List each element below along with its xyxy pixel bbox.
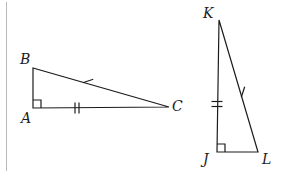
triangle-outline-abc (33, 68, 169, 108)
right-angle-marker-a (33, 100, 41, 108)
tick-mark-kl-1 (241, 87, 244, 97)
triangle-outline-jkl (217, 20, 258, 152)
vertex-label-l: L (262, 152, 271, 166)
vertex-label-b: B (20, 52, 30, 66)
geometry-figure: BACKJL (0, 0, 285, 173)
triangle-abc (33, 68, 169, 114)
vertex-label-c: C (172, 99, 183, 113)
vertex-label-j: J (203, 152, 209, 166)
tick-mark-bc-1 (83, 79, 93, 82)
triangle-jkl (212, 20, 259, 152)
right-angle-marker-j (217, 144, 225, 152)
vertex-label-k: K (203, 6, 213, 20)
figure-canvas (0, 0, 285, 173)
diagram-geometry (7, 2, 259, 171)
vertex-label-a: A (21, 111, 31, 125)
